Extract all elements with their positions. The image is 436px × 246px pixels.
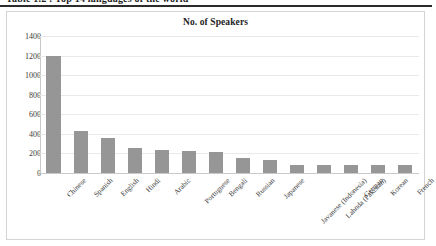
bar [398, 165, 412, 173]
bar [236, 158, 250, 173]
bar [317, 165, 331, 173]
x-axis-tick-label: Chinese [64, 176, 87, 199]
x-axis-tick-label: Korean [389, 176, 411, 198]
x-axis-tick-label: Spanish [91, 176, 114, 199]
x-axis-tick-label: Bengali [227, 176, 249, 198]
bar [155, 150, 169, 173]
bar [128, 148, 142, 173]
bar [263, 160, 277, 173]
gridline [40, 173, 419, 174]
bar [209, 152, 223, 173]
bar-series [40, 36, 419, 173]
clipped-header-label: Table 1.2 : Top 14 languages of the worl… [6, 0, 189, 4]
x-axis-tick-label: Japanese [282, 176, 307, 201]
x-axis-tick-label: Arabic [172, 176, 192, 196]
y-axis-tick [37, 173, 40, 174]
x-axis-tick-label: Russian [254, 176, 277, 199]
chart-title: No. of Speakers [7, 17, 424, 27]
chart-frame: No. of Speakers 140012001000800600400200… [6, 11, 425, 240]
bar [74, 131, 88, 173]
x-axis-tick-label: Hindi [144, 176, 162, 194]
x-axis-tick-label: French [415, 176, 436, 197]
plot-area [40, 36, 419, 173]
x-axis-tick-label: English [118, 176, 140, 198]
bar [290, 165, 304, 173]
bar [46, 56, 60, 173]
bar [101, 138, 115, 173]
bar [344, 165, 358, 173]
bar [371, 165, 385, 173]
bar [182, 151, 196, 173]
horizontal-rule [0, 5, 432, 7]
